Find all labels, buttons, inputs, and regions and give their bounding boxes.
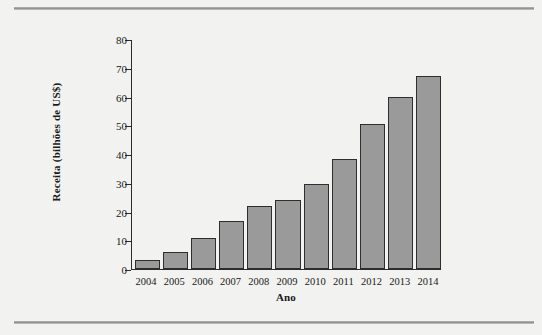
x-axis-tick-label: 2010 [301,274,329,290]
x-axis-tick-label: 2005 [160,274,188,290]
y-axis-tick-label: 50 [116,118,127,134]
x-axis-tick-label: 2011 [329,274,357,290]
bar [388,97,413,270]
bar [247,206,272,269]
bar-chart-figure: Receita (bilhões de US$) 010203040506070… [0,12,542,312]
bar [219,221,244,269]
x-axis-tick-label: 2006 [188,274,216,290]
y-axis-tick-label: 30 [116,176,127,192]
bar [360,124,385,269]
bar [416,76,441,269]
y-axis-tick-label: 20 [116,205,127,221]
x-axis-tick-labels: 2004200520062007200820092010201120122013… [132,274,442,290]
x-axis-tick-label: 2013 [386,274,414,290]
y-axis-tick-label: 60 [116,90,127,106]
x-axis-tick-label: 2004 [132,274,160,290]
plot-area: 01020304050607080 [131,40,441,270]
y-axis-tick-label: 40 [116,147,127,163]
x-axis-tick-label: 2012 [357,274,385,290]
x-axis-line [131,269,441,270]
x-axis-tick-label: 2014 [414,274,442,290]
bar [304,184,329,269]
page-rule-top [14,7,534,10]
y-axis-tick-label: 10 [116,233,127,249]
bar [275,200,300,269]
x-axis-title: Ano [131,291,441,303]
y-axis-tick-label: 70 [116,61,127,77]
page-rule-bottom [14,321,534,324]
bar [135,260,160,269]
x-axis-tick-label: 2007 [217,274,245,290]
bar [163,252,188,269]
x-axis-tick-label: 2009 [273,274,301,290]
bar [332,159,357,269]
bar-series [132,40,441,269]
y-axis-tick-label: 80 [116,32,127,48]
y-axis-tick-label: 0 [122,262,128,278]
x-axis-tick-label: 2008 [245,274,273,290]
bar [191,238,216,269]
y-axis-title: Receita (bilhões de US$) [48,34,64,250]
